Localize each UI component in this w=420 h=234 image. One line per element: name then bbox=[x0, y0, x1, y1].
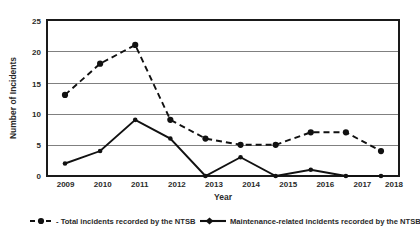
legend-swatch-diamond-icon bbox=[206, 218, 214, 225]
data-point-marker bbox=[168, 136, 173, 141]
x-tick-label-2009: 2009 bbox=[57, 180, 75, 189]
x-tick-label-2010: 2010 bbox=[94, 180, 112, 189]
data-point-marker bbox=[343, 129, 349, 135]
incidents-line-chart: 0 5 10 15 20 25 Number of Incidents 2009… bbox=[0, 0, 420, 234]
legend-item-total-incidents[interactable]: - Total incidents recorded by the NTSB bbox=[30, 217, 196, 226]
x-axis-tick-labels: 2009 2010 2011 2012 2013 2014 2015 2016 … bbox=[57, 180, 404, 189]
y-tick-label-15: 15 bbox=[32, 80, 41, 89]
y-tick-label-5: 5 bbox=[37, 141, 42, 150]
x-tick-label-2013: 2013 bbox=[205, 180, 223, 189]
x-tick-label-2018: 2018 bbox=[385, 180, 403, 189]
data-point-marker bbox=[308, 167, 313, 172]
x-tick-label-2011: 2011 bbox=[131, 180, 149, 189]
data-point-marker bbox=[203, 174, 208, 179]
data-point-marker bbox=[238, 155, 243, 160]
x-tick-label-2016: 2016 bbox=[316, 180, 334, 189]
data-point-marker bbox=[273, 174, 278, 179]
chart-page: 0 5 10 15 20 25 Number of Incidents 2009… bbox=[0, 0, 420, 234]
data-point-marker bbox=[63, 161, 68, 166]
data-point-marker bbox=[344, 174, 349, 179]
x-tick-label-2012: 2012 bbox=[168, 180, 186, 189]
y-tick-label-20: 20 bbox=[32, 48, 41, 57]
data-point-marker bbox=[62, 92, 68, 98]
data-point-marker bbox=[379, 174, 384, 179]
chart-canvas: 0 5 10 15 20 25 Number of Incidents 2009… bbox=[0, 0, 420, 234]
data-point-marker bbox=[273, 142, 279, 148]
data-point-marker bbox=[167, 117, 173, 123]
data-point-marker bbox=[133, 118, 138, 123]
y-axis-title: Number of Incidents bbox=[8, 57, 18, 139]
y-tick-label-0: 0 bbox=[37, 172, 42, 181]
data-point-marker bbox=[378, 148, 384, 154]
x-tick-label-2017: 2017 bbox=[354, 180, 372, 189]
data-point-marker bbox=[98, 149, 103, 154]
legend-item-total-incidents-label: - Total incidents recorded by the NTSB bbox=[56, 217, 196, 226]
chart-legend: - Total incidents recorded by the NTSB M… bbox=[30, 217, 420, 226]
data-point-marker bbox=[132, 42, 138, 48]
legend-item-maintenance-incidents[interactable]: Maintenance-related incidents recorded b… bbox=[200, 217, 420, 226]
y-tick-label-10: 10 bbox=[32, 110, 41, 119]
data-point-marker bbox=[237, 142, 243, 148]
data-point-marker bbox=[97, 61, 103, 67]
y-axis-tick-labels: 0 5 10 15 20 25 bbox=[32, 17, 41, 182]
data-point-marker bbox=[308, 129, 314, 135]
y-tick-label-25: 25 bbox=[32, 17, 41, 26]
x-axis-title: Year bbox=[214, 192, 233, 202]
x-tick-label-2015: 2015 bbox=[279, 180, 297, 189]
legend-item-maintenance-incidents-label: Maintenance-related incidents recorded b… bbox=[230, 217, 420, 226]
legend-swatch-circle-icon bbox=[38, 218, 44, 224]
data-point-marker bbox=[202, 135, 208, 141]
x-tick-label-2014: 2014 bbox=[242, 180, 260, 189]
